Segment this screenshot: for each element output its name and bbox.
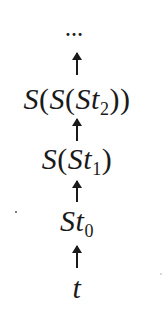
- up-arrow-icon: [76, 246, 78, 268]
- scan-speck: [160, 273, 162, 275]
- up-arrow-icon: [76, 181, 78, 202]
- scan-speck: [15, 211, 17, 213]
- term-var: t: [83, 142, 92, 175]
- term-var: t: [73, 271, 82, 304]
- up-arrow-icon: [76, 119, 78, 141]
- term-s-st1: S(St1): [0, 143, 154, 175]
- term-subscript: 0: [84, 221, 94, 241]
- term-s-s-st2: S(S(St2)): [0, 83, 154, 115]
- ellipsis-continuation: …: [0, 20, 154, 40]
- term-subscript: 1: [92, 159, 102, 179]
- term-var: t: [91, 82, 100, 115]
- term-st0: St0: [0, 205, 154, 237]
- up-arrow-icon: [76, 53, 78, 75]
- term-t: t: [0, 272, 154, 304]
- term-subscript: 2: [100, 99, 110, 119]
